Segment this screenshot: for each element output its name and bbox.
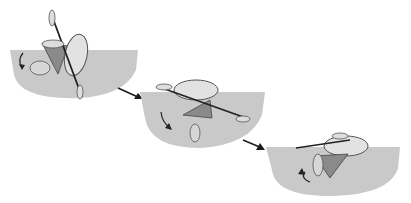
kayak-roll-illustration <box>0 0 411 203</box>
stage-1 <box>10 10 138 99</box>
stage-3 <box>266 133 400 196</box>
stage-2 <box>140 80 265 148</box>
